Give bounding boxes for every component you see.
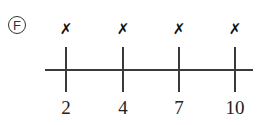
tick-7 [178, 47, 180, 92]
x-mark-icon: ✗ [171, 22, 187, 37]
tick-10 [234, 47, 236, 92]
tick-label: 10 [220, 98, 250, 117]
tick-2 [65, 47, 67, 92]
x-mark-icon: ✗ [115, 22, 131, 37]
tick-label: 7 [164, 98, 194, 117]
option-label-badge: F [8, 16, 26, 34]
number-line-axis [45, 69, 253, 71]
x-mark-icon: ✗ [58, 22, 74, 37]
tick-label: 2 [51, 98, 81, 117]
tick-4 [122, 47, 124, 92]
tick-label: 4 [108, 98, 138, 117]
x-mark-icon: ✗ [227, 22, 243, 37]
